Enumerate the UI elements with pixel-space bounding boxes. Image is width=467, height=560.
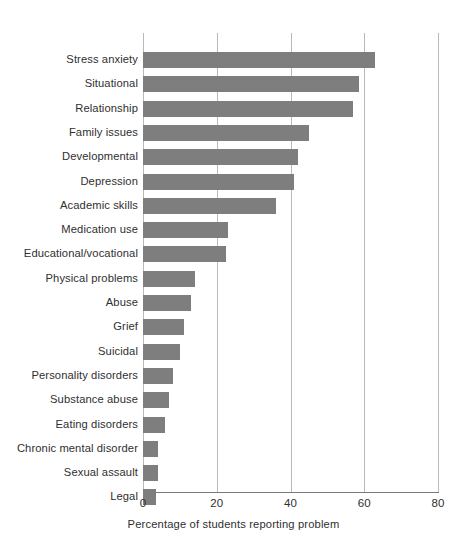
bar-rows: Stress anxietySituationalRelationshipFam…: [0, 0, 467, 492]
bar: [143, 198, 276, 214]
x-tick-label: 80: [418, 497, 458, 509]
bar: [143, 222, 228, 238]
bar-category-label: Family issues: [0, 123, 138, 142]
bar: [143, 465, 158, 481]
bar: [143, 417, 165, 433]
bar-category-label: Medication use: [0, 220, 138, 239]
bar-row: Eating disorders: [0, 417, 467, 433]
bar-row: Substance abuse: [0, 392, 467, 408]
bar: [143, 101, 353, 117]
bar: [143, 246, 226, 262]
bar-row: Sexual assault: [0, 465, 467, 481]
bar-category-label: Substance abuse: [0, 390, 138, 409]
bar-category-label: Developmental: [0, 147, 138, 166]
bar-category-label: Academic skills: [0, 196, 138, 215]
bar-category-label: Chronic mental disorder: [0, 439, 138, 458]
bar-category-label: Depression: [0, 172, 138, 191]
bar-category-label: Suicidal: [0, 342, 138, 361]
bar-row: Educational/vocational: [0, 246, 467, 262]
bar-row: Stress anxiety: [0, 52, 467, 68]
bar-row: Medication use: [0, 222, 467, 238]
x-tick-label: 20: [197, 497, 237, 509]
bar: [143, 441, 158, 457]
bar-category-label: Eating disorders: [0, 415, 138, 434]
bar: [143, 149, 298, 165]
bar: [143, 271, 195, 287]
bar-row: Physical problems: [0, 271, 467, 287]
bar-category-label: Legal: [0, 487, 138, 506]
bar-row: Abuse: [0, 295, 467, 311]
bar-category-label: Physical problems: [0, 269, 138, 288]
bar-chart: Stress anxietySituationalRelationshipFam…: [0, 0, 467, 560]
bar-row: Chronic mental disorder: [0, 441, 467, 457]
bar-category-label: Relationship: [0, 99, 138, 118]
bar: [143, 174, 294, 190]
bar: [143, 52, 375, 68]
bar-category-label: Situational: [0, 74, 138, 93]
x-axis-title: Percentage of students reporting problem: [0, 518, 467, 530]
x-tick-label: 60: [344, 497, 384, 509]
bar: [143, 344, 180, 360]
x-tick-label: 40: [271, 497, 311, 509]
bar-category-label: Educational/vocational: [0, 244, 138, 263]
bar-row: Suicidal: [0, 344, 467, 360]
bar: [143, 76, 359, 92]
bar-category-label: Personality disorders: [0, 366, 138, 385]
bar-row: Personality disorders: [0, 368, 467, 384]
bar: [143, 125, 309, 141]
bar-row: Depression: [0, 174, 467, 190]
bar: [143, 295, 191, 311]
bar-category-label: Sexual assault: [0, 463, 138, 482]
x-tick-label: 0: [123, 497, 163, 509]
bar-category-label: Abuse: [0, 293, 138, 312]
bar-row: Developmental: [0, 149, 467, 165]
bar-category-label: Stress anxiety: [0, 50, 138, 69]
bar-category-label: Grief: [0, 317, 138, 336]
bar: [143, 368, 173, 384]
bar-row: Grief: [0, 319, 467, 335]
bar: [143, 392, 169, 408]
bar-row: Situational: [0, 76, 467, 92]
bar-row: Family issues: [0, 125, 467, 141]
bar: [143, 319, 184, 335]
bar-row: Relationship: [0, 101, 467, 117]
bar-row: Academic skills: [0, 198, 467, 214]
